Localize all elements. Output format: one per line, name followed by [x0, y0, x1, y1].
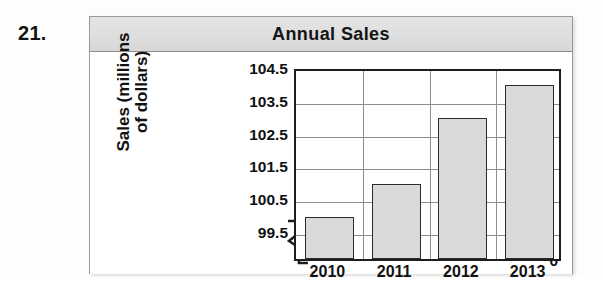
chart-panel: Annual Sales Sales (millions of dollars)… [89, 16, 573, 274]
y-axis-tick-labels: 104.5103.5102.5101.5100.599.5 [231, 69, 291, 233]
y-axis-tick-label: 101.5 [249, 158, 288, 176]
y-axis-title: Sales (millions of dollars) [110, 0, 156, 187]
y-axis-tick-label: 100.5 [249, 191, 288, 209]
y-axis-tick-label: 103.5 [249, 93, 288, 111]
y-axis-tick-label: 104.5 [249, 60, 288, 78]
y-axis-tick-label: 102.5 [249, 126, 288, 144]
slot-divider [496, 71, 497, 259]
y-axis-title-line2: of dollars) [132, 51, 151, 133]
bar-2010 [305, 217, 354, 259]
chart-title: Annual Sales [272, 24, 390, 45]
x-axis-tick-label: 2011 [377, 263, 412, 281]
chart-title-bar: Annual Sales [90, 17, 572, 52]
x-axis-tick-labels: 2010201120122013 [294, 263, 561, 283]
x-axis-tick-label: 2012 [443, 263, 479, 281]
bar-2012 [438, 118, 487, 259]
bar-2011 [372, 184, 421, 259]
bar-2013 [505, 85, 554, 259]
y-axis-tick-label: 99.5 [258, 224, 288, 242]
problem-number: 21. [18, 22, 47, 45]
bar-chart-plot [294, 69, 561, 261]
y-axis-title-line1: Sales (millions [114, 32, 133, 151]
slot-divider [363, 71, 364, 259]
chart-plot-area: 104.5103.5102.5101.5100.599.5 0 20102011… [231, 69, 561, 275]
slot-divider [430, 71, 431, 259]
x-axis-tick-label: 2013 [510, 263, 546, 281]
x-axis-tick-label: 2010 [310, 263, 346, 281]
